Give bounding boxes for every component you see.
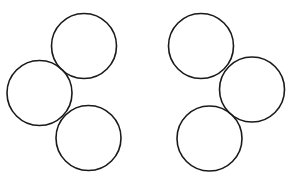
- left-group-bottom-circle: [56, 106, 121, 171]
- right-group-top-circle: [169, 14, 234, 79]
- left-group-middle-left-circle: [7, 61, 72, 126]
- right-group-bottom-circle: [177, 106, 242, 171]
- left-group: [7, 14, 121, 171]
- circles-diagram: [0, 0, 291, 182]
- right-group: [169, 14, 285, 172]
